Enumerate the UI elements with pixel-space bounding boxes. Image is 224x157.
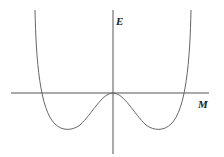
double-well-diagram: E M bbox=[0, 0, 224, 157]
y-axis-label: E bbox=[115, 15, 123, 27]
x-axis-label: M bbox=[197, 98, 209, 110]
